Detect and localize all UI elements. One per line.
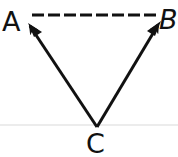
arrow-edge-c-b (97, 25, 158, 127)
node-label-c: C (86, 130, 105, 157)
arrow-edge-c-a (30, 26, 97, 127)
vector-triangle-diagram: A B C (0, 0, 178, 157)
node-label-a: A (2, 8, 20, 35)
arrowhead-a-icon (28, 23, 42, 37)
node-label-b: B (159, 6, 178, 33)
